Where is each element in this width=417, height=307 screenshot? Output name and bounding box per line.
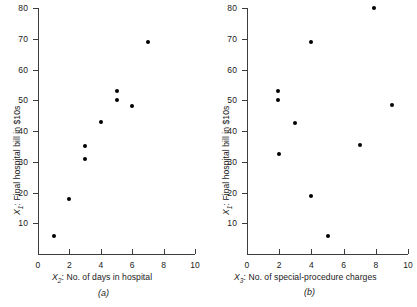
x-tick-label-a-10: 10 xyxy=(184,261,206,270)
y-tick-a-50 xyxy=(33,100,38,101)
y-tick-label-a-60: 60 xyxy=(6,66,28,75)
y-axis-line-a xyxy=(38,8,39,255)
x-tick-b-2 xyxy=(279,249,280,254)
y-axis-line-b xyxy=(247,8,248,255)
y-tick-label-a-50: 50 xyxy=(6,96,28,105)
scatterplot-figure: 1020304050607080 0246810 X2: No. of days… xyxy=(0,0,417,307)
y-tick-a-60 xyxy=(33,70,38,71)
panel-a: 1020304050607080 0246810 X2: No. of days… xyxy=(0,0,208,307)
data-point xyxy=(276,89,280,93)
panel-caption-a: (a) xyxy=(98,288,109,298)
panel-b: 1020304050607080 0246810 X3: No. of spec… xyxy=(209,0,417,307)
data-point xyxy=(390,103,394,107)
y-tick-b-80 xyxy=(242,8,247,9)
x-tick-label-a-8: 8 xyxy=(153,261,175,270)
x-tick-label-b-2: 2 xyxy=(268,261,290,270)
x-tick-b-8 xyxy=(376,249,377,254)
data-point xyxy=(99,120,103,124)
y-tick-label-a-10: 10 xyxy=(6,219,28,228)
y-tick-b-10 xyxy=(242,223,247,224)
y-tick-a-70 xyxy=(33,39,38,40)
x-tick-label-b-10: 10 xyxy=(397,261,417,270)
x-axis-line-a xyxy=(38,254,195,255)
x-tick-a-2 xyxy=(69,249,70,254)
data-point xyxy=(358,143,362,147)
y-tick-b-60 xyxy=(242,70,247,71)
y-tick-a-80 xyxy=(33,8,38,9)
data-point xyxy=(115,98,119,102)
data-point xyxy=(83,157,87,161)
y-tick-b-20 xyxy=(242,193,247,194)
x-tick-a-10 xyxy=(195,249,196,254)
x-tick-a-4 xyxy=(101,249,102,254)
y-tick-a-30 xyxy=(33,162,38,163)
y-tick-b-30 xyxy=(242,162,247,163)
x-tick-b-4 xyxy=(311,249,312,254)
data-point xyxy=(115,89,119,93)
y-tick-a-20 xyxy=(33,193,38,194)
x-tick-label-a-0: 0 xyxy=(27,261,49,270)
x-tick-a-8 xyxy=(164,249,165,254)
x-tick-b-10 xyxy=(408,249,409,254)
y-tick-a-10 xyxy=(33,223,38,224)
data-point xyxy=(326,234,330,238)
x-tick-b-6 xyxy=(344,249,345,254)
data-point xyxy=(52,234,56,238)
x-axis-label-a: X2: No. of days in hospital xyxy=(52,272,152,284)
y-tick-a-40 xyxy=(33,131,38,132)
y-tick-label-b-70: 70 xyxy=(215,35,237,44)
y-tick-label-b-10: 10 xyxy=(215,219,237,228)
y-tick-label-b-60: 60 xyxy=(215,66,237,75)
panel-caption-b: (b) xyxy=(304,287,315,297)
y-tick-label-a-70: 70 xyxy=(6,35,28,44)
data-point xyxy=(146,40,150,44)
x-tick-label-b-4: 4 xyxy=(300,261,322,270)
x-tick-label-b-0: 0 xyxy=(236,261,258,270)
plot-area-b xyxy=(247,8,408,255)
y-tick-b-40 xyxy=(242,131,247,132)
x-tick-label-b-6: 6 xyxy=(333,261,355,270)
x-tick-label-a-2: 2 xyxy=(58,261,80,270)
x-axis-label-b: X3: No. of special-procedure charges xyxy=(234,272,377,284)
y-tick-b-50 xyxy=(242,100,247,101)
plot-area-a xyxy=(38,8,195,255)
x-tick-label-a-4: 4 xyxy=(90,261,112,270)
y-tick-label-b-80: 80 xyxy=(215,4,237,13)
y-tick-label-b-50: 50 xyxy=(215,96,237,105)
y-tick-label-a-80: 80 xyxy=(6,4,28,13)
x-tick-label-a-6: 6 xyxy=(121,261,143,270)
y-tick-b-70 xyxy=(242,39,247,40)
x-axis-line-b xyxy=(247,254,408,255)
y-axis-label-b: X1: Final hospital bill in $10s xyxy=(221,106,233,215)
data-point xyxy=(276,98,280,102)
y-axis-label-a: X1: Final hospital bill in $10s xyxy=(12,106,24,215)
x-tick-a-6 xyxy=(132,249,133,254)
x-tick-label-b-8: 8 xyxy=(365,261,387,270)
